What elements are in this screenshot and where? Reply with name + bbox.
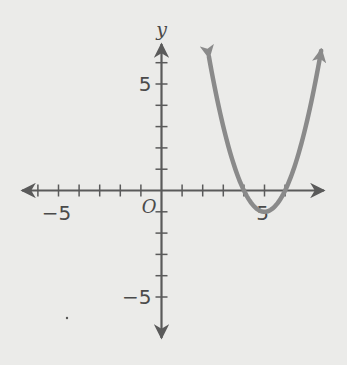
x-tick-label: −5 [42,201,71,225]
coordinate-plane: −555−5yO [0,0,347,365]
axes [22,44,324,338]
y-tick-label: 5 [139,72,152,96]
y-axis-label: y [155,18,167,40]
speck [66,317,68,319]
origin-label: O [142,196,157,217]
y-tick-label: −5 [122,285,151,309]
